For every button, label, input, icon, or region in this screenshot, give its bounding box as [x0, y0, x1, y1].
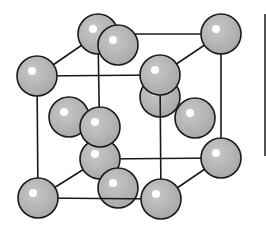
highlight-icon: [109, 179, 117, 187]
mid-atoms: [49, 25, 215, 208]
atom-back-top-right-corner: [201, 14, 241, 54]
highlight-icon: [29, 189, 37, 197]
highlight-icon: [91, 150, 99, 158]
atom-front-bottom-right-corner: [141, 179, 181, 219]
highlight-icon: [89, 25, 97, 33]
atom-back-bottom-right-corner: [201, 138, 241, 178]
atom-bottom-face-center: [98, 168, 138, 208]
highlight-icon: [109, 36, 117, 44]
highlight-icon: [212, 25, 220, 33]
highlight-icon: [212, 149, 220, 157]
atom-front-bottom-left-corner: [18, 178, 58, 218]
highlight-icon: [91, 118, 99, 126]
atom-front-face-center: [80, 107, 120, 147]
highlight-icon: [152, 190, 160, 198]
highlight-icon: [186, 109, 194, 117]
highlight-icon: [28, 67, 36, 75]
highlight-icon: [60, 108, 68, 116]
atom-top-face-center: [98, 25, 138, 65]
atom-front-top-left-corner: [17, 56, 57, 96]
fcc-crystal-diagram: [0, 0, 266, 232]
atom-right-face-center: [175, 98, 215, 138]
atom-front-top-right-corner: [140, 55, 180, 95]
highlight-icon: [151, 66, 159, 74]
